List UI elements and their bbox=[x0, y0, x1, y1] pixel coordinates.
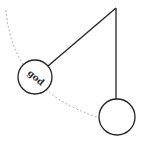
swing-arc bbox=[6, 10, 100, 118]
pendulum-diagram: god bbox=[0, 0, 143, 143]
pendulum-string-swung bbox=[48, 8, 116, 66]
pendulum-bob-rest bbox=[99, 99, 135, 135]
